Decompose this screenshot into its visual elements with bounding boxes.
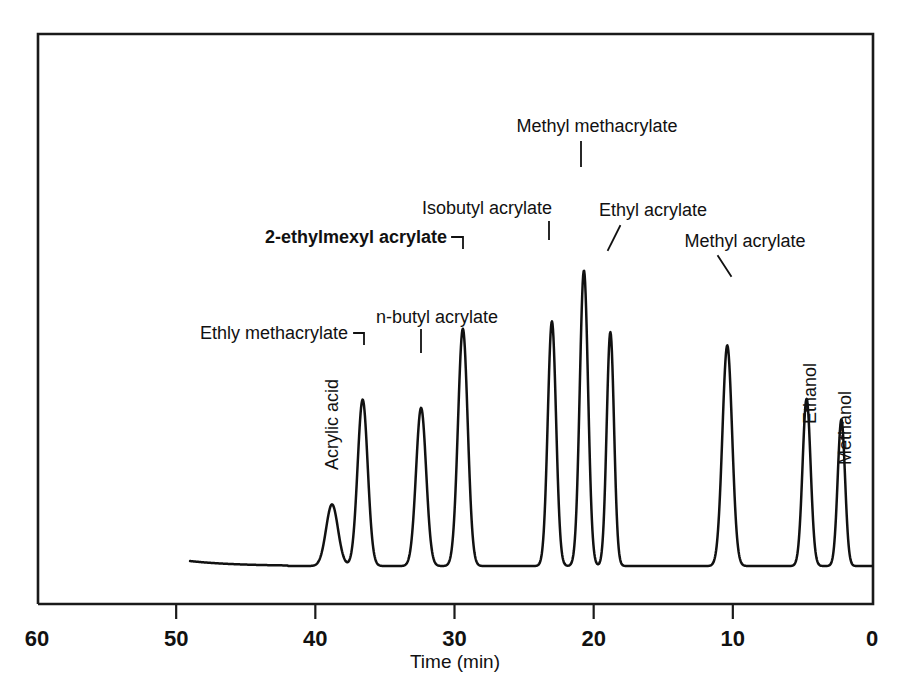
axis-tick-label: 10 (721, 626, 745, 651)
peak-leader-line-ethly-methacrylate (354, 333, 364, 344)
axis-tick-group (176, 604, 733, 619)
peak-label-ethyl-acrylate: Ethyl acrylate (599, 200, 707, 220)
axis-tick-label: 20 (581, 626, 605, 651)
axis-tick-label: 0 (866, 626, 878, 651)
chromatogram-svg: 6050403020100 Acrylic acidEthly methacry… (0, 0, 905, 696)
peak-label-methyl-methacrylate: Methyl methacrylate (516, 116, 677, 136)
axis-tick-label: 40 (303, 626, 327, 651)
peak-leader-line-methyl-acrylate (718, 256, 731, 276)
peak-label-ethanol: Ethanol (800, 363, 820, 424)
axis-tick-label: 60 (25, 626, 49, 651)
axis-tick-label-group: 6050403020100 (25, 626, 878, 651)
peak-leader-line-ethyl-acrylate (608, 226, 620, 250)
peak-label-isobutyl-acrylate: Isobutyl acrylate (422, 198, 552, 218)
chromatogram-trace (190, 271, 872, 566)
axis-tick-label: 30 (442, 626, 466, 651)
peak-leader-line-2-ethylmexyl-acrylate (452, 237, 463, 248)
x-axis-title: Time (min) (410, 651, 500, 672)
chromatogram-figure: 6050403020100 Acrylic acidEthly methacry… (0, 0, 905, 696)
peak-label-ethly-methacrylate: Ethly methacrylate (200, 323, 348, 343)
peak-label-2-ethylmexyl-acrylate: 2-ethylmexyl acrylate (265, 227, 447, 247)
peak-label-methyl-acrylate: Methyl acrylate (684, 231, 805, 251)
peak-label-group: Acrylic acidEthly methacrylaten-butyl ac… (200, 116, 855, 470)
peak-label-methanol: Methanol (835, 391, 855, 465)
peak-label-acrylic-acid: Acrylic acid (322, 379, 342, 470)
peak-label-n-butyl-acrylate: n-butyl acrylate (376, 307, 498, 327)
axis-tick-label: 50 (164, 626, 188, 651)
